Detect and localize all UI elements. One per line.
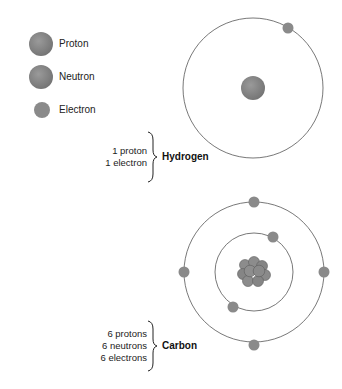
legend-neutron-label: Neutron [59, 71, 95, 83]
carbon-nucleus [238, 257, 271, 287]
hydrogen-brace [148, 132, 157, 182]
carbon-neutron-count: 6 neutrons [101, 340, 147, 352]
hydrogen-label: Hydrogen [162, 151, 209, 163]
hydrogen-nucleus-proton [241, 76, 265, 100]
hydrogen-atom [183, 18, 323, 158]
hydrogen-counts: 1 proton 1 electron [105, 145, 147, 169]
carbon-electron [249, 340, 260, 351]
carbon-atom [179, 197, 330, 351]
carbon-electron [319, 267, 330, 278]
hydrogen-electron-count: 1 electron [105, 157, 147, 169]
carbon-brace [148, 321, 157, 371]
carbon-electron [249, 197, 260, 208]
legend-proton-label: Proton [59, 38, 88, 50]
electron-icon [34, 102, 50, 118]
carbon-electron-count: 6 electrons [101, 352, 147, 364]
legend-electron-label: Electron [59, 104, 96, 116]
carbon-label: Carbon [162, 340, 197, 352]
hydrogen-electron [283, 23, 294, 34]
proton-icon [29, 32, 53, 56]
carbon-electron [179, 267, 190, 278]
atom-diagram [0, 0, 342, 389]
hydrogen-proton-count: 1 proton [105, 145, 147, 157]
carbon-electron [268, 232, 279, 243]
neutron-icon [29, 65, 53, 89]
carbon-proton-count: 6 protons [101, 328, 147, 340]
carbon-counts: 6 protons 6 neutrons 6 electrons [101, 328, 147, 364]
carbon-electron [228, 302, 239, 313]
